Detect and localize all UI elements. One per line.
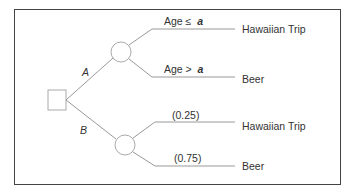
probability-label-1: (0.25) — [172, 110, 199, 121]
decision-node-square — [48, 90, 66, 110]
outcome-hawaiian-trip-a: Hawaiian Trip — [242, 24, 306, 35]
condition-text: Age > — [164, 63, 192, 75]
outcome-hawaiian-trip-b: Hawaiian Trip — [242, 121, 306, 132]
condition-variable: a — [197, 15, 203, 27]
outcome-beer-b: Beer — [242, 161, 264, 172]
condition-variable: a — [198, 63, 204, 75]
condition-text: Age ≤ — [164, 15, 191, 27]
chance-node-b — [115, 135, 135, 155]
branch-label-b: B — [80, 125, 87, 136]
condition-age-gt-a: Age > a — [164, 64, 203, 75]
chance-node-a — [111, 42, 131, 62]
branch-label-a: A — [82, 67, 89, 78]
outcome-beer-a: Beer — [242, 74, 264, 85]
condition-age-le-a: Age ≤ a — [164, 16, 203, 27]
probability-label-2: (0.75) — [174, 153, 201, 164]
